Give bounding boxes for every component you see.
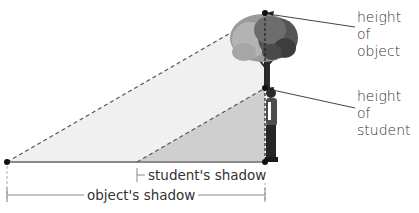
height-of-student-label: height of student xyxy=(357,88,419,139)
objects-shadow-label: object's shadow xyxy=(84,187,198,203)
shadow-tip-point xyxy=(4,159,10,165)
object-top-point xyxy=(262,10,268,16)
student-icon xyxy=(265,88,278,162)
student-top-point xyxy=(262,85,268,91)
height-of-object-label: height of object xyxy=(357,9,419,60)
student-height-pointer xyxy=(268,89,355,108)
students-shadow-label: student's shadow xyxy=(145,167,269,183)
base-point xyxy=(262,159,268,165)
